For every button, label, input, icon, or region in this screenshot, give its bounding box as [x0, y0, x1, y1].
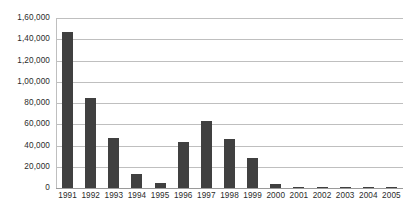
- bar-1993: [108, 138, 119, 188]
- y-axis-tick-label: 1,60,000: [0, 14, 50, 22]
- bar-2004: [363, 187, 374, 188]
- y-axis-tick-label: 80,000: [0, 99, 50, 107]
- y-axis-tick-label: 20,000: [0, 163, 50, 171]
- bar-2002: [317, 187, 328, 188]
- x-axis-tick-label: 2005: [376, 191, 406, 201]
- bar-1996: [178, 142, 189, 188]
- bar-1998: [224, 139, 235, 188]
- x-axis: 1991199219931994199519961997199819992000…: [56, 191, 403, 207]
- x-axis-line: [56, 188, 403, 189]
- bar-1991: [62, 32, 73, 188]
- y-axis: 020,00040,00060,00080,0001,00,0001,20,00…: [0, 0, 54, 216]
- bars-series: [56, 18, 403, 188]
- plot-area: [56, 18, 403, 188]
- bar-2000: [270, 184, 281, 188]
- bar-2005: [386, 187, 397, 188]
- y-axis-tick-label: 40,000: [0, 141, 50, 149]
- bar-1992: [85, 98, 96, 188]
- y-axis-tick-label: 0: [0, 184, 50, 192]
- bar-1994: [131, 174, 142, 188]
- y-axis-tick-label: 1,20,000: [0, 56, 50, 64]
- bar-chart: 020,00040,00060,00080,0001,00,0001,20,00…: [0, 0, 414, 216]
- y-axis-tick-label: 1,40,000: [0, 35, 50, 43]
- bar-2001: [293, 187, 304, 188]
- bar-1995: [155, 183, 166, 188]
- bar-1997: [201, 121, 212, 188]
- y-axis-tick-label: 1,00,000: [0, 78, 50, 86]
- y-axis-tick-label: 60,000: [0, 120, 50, 128]
- bar-2003: [340, 187, 351, 188]
- bar-1999: [247, 158, 258, 188]
